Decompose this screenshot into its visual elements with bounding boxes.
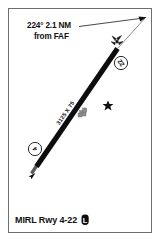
runway-lighting-note-label: MIRL Rwy 4-22 <box>15 215 77 225</box>
faf-bearing-distance-label: 224° 2.1 NM <box>27 21 71 30</box>
apron-ramp-block-icon <box>78 108 87 117</box>
wind-cone-icon <box>111 36 123 45</box>
runway-northeast-extended-centerline <box>118 17 146 48</box>
faf-callout-leader-group <box>79 16 147 26</box>
pilot-controlled-lighting-icon: L <box>82 215 89 226</box>
lighting-symbol-letter: L <box>83 216 88 225</box>
airport-diagram-canvas: 3125 X 75 22 4 <box>0 0 160 242</box>
airport-sketch-panel: 3125 X 75 22 4 <box>0 0 160 242</box>
airport-beacon-star-icon <box>103 100 114 110</box>
runway-4-22-surface <box>37 49 118 167</box>
faf-source-label: from FAF <box>34 32 69 41</box>
runway-designator-22-group: 22 <box>114 56 127 69</box>
approach-direction-arrow-icon <box>29 173 36 179</box>
runway-designator-4-group: 4 <box>28 142 41 155</box>
chart-frame-border <box>9 9 152 233</box>
